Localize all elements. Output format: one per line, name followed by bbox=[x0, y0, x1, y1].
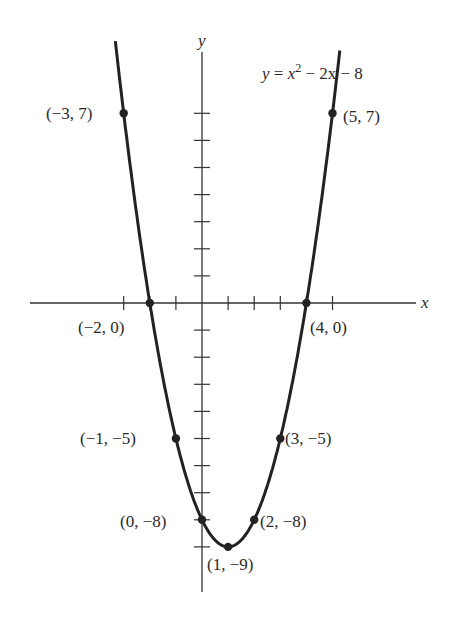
point-label-neg1-neg5: (−1, −5) bbox=[80, 429, 136, 448]
point-label-0-neg8: (0, −8) bbox=[120, 512, 166, 531]
data-point bbox=[328, 109, 336, 117]
data-point bbox=[250, 516, 258, 524]
point-label-4-0: (4, 0) bbox=[310, 318, 347, 337]
point-label-1-neg9: (1, −9) bbox=[207, 555, 253, 574]
point-label-2-neg8: (2, −8) bbox=[260, 512, 306, 531]
point-label-neg3-7: (−3, 7) bbox=[46, 104, 92, 123]
data-point bbox=[302, 299, 310, 307]
y-axis-label: y bbox=[196, 31, 206, 50]
parabola-chart: y x y = x2 − 2x − 8 (−3, 7) (−2, 0) (−1,… bbox=[0, 0, 457, 628]
data-point bbox=[146, 299, 154, 307]
equation-label: y = x2 − 2x − 8 bbox=[260, 61, 363, 83]
data-point bbox=[198, 516, 206, 524]
parabola-curve bbox=[115, 41, 339, 547]
data-point bbox=[120, 109, 128, 117]
x-axis-label: x bbox=[420, 293, 429, 312]
data-points bbox=[120, 109, 337, 551]
point-label-3-neg5: (3, −5) bbox=[285, 429, 331, 448]
point-label-5-7: (5, 7) bbox=[343, 107, 380, 126]
point-label-neg2-0: (−2, 0) bbox=[78, 318, 124, 337]
data-point bbox=[224, 543, 232, 551]
data-point bbox=[172, 434, 180, 442]
data-point bbox=[276, 434, 284, 442]
